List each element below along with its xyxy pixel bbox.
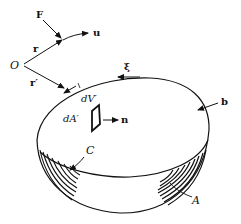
force-arrow xyxy=(43,20,61,38)
label-b: b xyxy=(221,97,228,107)
tangent-arrow xyxy=(64,86,76,93)
area-element-patch xyxy=(92,105,100,131)
label-area-element: dA′ xyxy=(63,114,79,124)
label-force: F xyxy=(36,10,43,20)
label-u: u xyxy=(93,28,100,38)
diagram-svg xyxy=(0,0,241,224)
curve-c-arrow xyxy=(70,157,84,170)
label-surface: A xyxy=(192,195,200,206)
vector-u xyxy=(63,33,88,40)
label-xi: ξ xyxy=(124,62,130,72)
b-arrow xyxy=(198,103,218,110)
label-normal: n xyxy=(121,115,128,125)
label-curve: C xyxy=(86,145,94,156)
bowl-diagram: F u O r r′ ξ b dV′ dA′ n C A xyxy=(0,0,241,224)
label-volume-element: dV′ xyxy=(81,94,97,104)
label-r-prime: r′ xyxy=(30,78,38,88)
label-r: r xyxy=(33,44,38,54)
vector-r xyxy=(24,40,62,64)
bowl-shading-left xyxy=(40,150,80,200)
label-origin: O xyxy=(10,60,19,71)
